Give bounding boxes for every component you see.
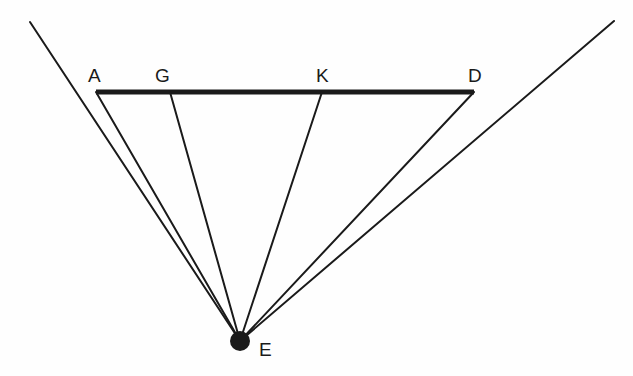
right-boundary-ray <box>240 21 614 341</box>
eye-point-dot <box>230 331 250 351</box>
segment-DE <box>240 92 474 341</box>
left-boundary-ray <box>30 22 240 341</box>
point-labels: AGKDE <box>88 65 482 360</box>
diagram-canvas: AGKDE <box>0 0 633 376</box>
label-K: K <box>316 65 329 86</box>
label-E: E <box>259 339 272 360</box>
perspective-diagram: AGKDE <box>0 0 633 376</box>
label-A: A <box>88 65 101 86</box>
label-G: G <box>155 65 170 86</box>
segment-KE <box>240 92 322 341</box>
segment-AE <box>96 92 240 341</box>
eye-point-group <box>230 331 250 351</box>
label-D: D <box>468 65 482 86</box>
segment-GE <box>170 92 240 341</box>
